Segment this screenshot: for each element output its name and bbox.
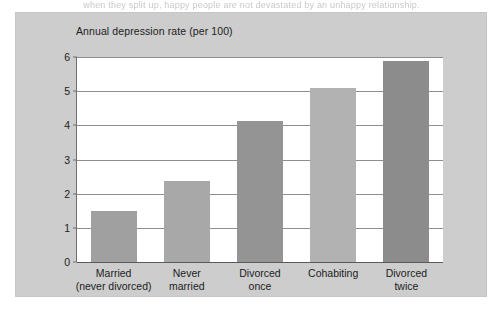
bar-1 [91, 211, 137, 262]
bar-3 [237, 121, 283, 262]
y-tick-mark-5 [73, 91, 77, 92]
y-tick-label-2: 2 [64, 188, 70, 200]
y-tick-mark-3 [73, 159, 77, 160]
x-axis-label-2: Nevermarried [169, 267, 205, 292]
bar-2 [164, 181, 210, 262]
x-axis-label-3: Divorcedonce [239, 267, 280, 292]
y-tick-mark-4 [73, 125, 77, 126]
y-tick-label-3: 3 [64, 154, 70, 166]
y-tick-label-5: 5 [64, 85, 70, 97]
chart-figure-panel: Annual depression rate (per 100) 0123456… [15, 12, 487, 297]
x-axis-label-4: Cohabiting [308, 267, 358, 280]
y-tick-mark-6 [73, 57, 77, 58]
y-tick-mark-0 [73, 262, 77, 263]
y-tick-mark-2 [73, 193, 77, 194]
bar-5 [383, 61, 429, 262]
plot-area: 0123456 Married(never divorced)Nevermarr… [76, 57, 443, 262]
y-tick-label-4: 4 [64, 119, 70, 131]
y-tick-label-6: 6 [64, 51, 70, 63]
axis-baseline [77, 262, 443, 263]
bar-4 [310, 88, 356, 262]
x-axis-label-5: Divorcedtwice [386, 267, 427, 292]
x-axis-label-1: Married(never divorced) [76, 267, 152, 292]
y-tick-label-1: 1 [64, 222, 70, 234]
chart-title: Annual depression rate (per 100) [76, 25, 233, 37]
y-tick-label-0: 0 [64, 256, 70, 268]
gridline-6 [77, 57, 443, 58]
page-top-text-sliver: when they split up, happy people are not… [0, 0, 503, 11]
y-tick-mark-1 [73, 227, 77, 228]
